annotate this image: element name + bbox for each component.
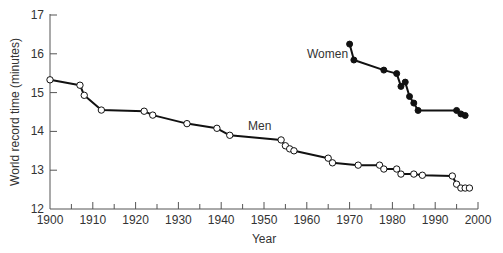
- y-tick-label: 16: [31, 47, 45, 61]
- data-point: [449, 173, 455, 179]
- data-point: [81, 92, 87, 98]
- data-point: [214, 125, 220, 131]
- y-axis-label: World record time (minutes): [8, 38, 22, 186]
- data-point: [141, 108, 147, 114]
- series-women: [347, 41, 469, 118]
- data-point: [355, 162, 361, 168]
- data-point: [411, 100, 417, 106]
- data-point: [381, 166, 387, 172]
- x-tick-label: 1910: [79, 213, 106, 227]
- x-tick-label: 1970: [336, 213, 363, 227]
- data-point: [98, 107, 104, 113]
- y-tick-label: 15: [31, 86, 45, 100]
- x-axis-label: Year: [252, 232, 276, 246]
- women-series-label: Women: [307, 47, 348, 61]
- data-point: [278, 137, 284, 143]
- world-record-chart: 1213141516171900191019201930194019501960…: [0, 0, 503, 253]
- x-tick-label: 1920: [122, 213, 149, 227]
- x-tick-label: 1950: [251, 213, 278, 227]
- data-point: [462, 112, 468, 118]
- data-point: [184, 120, 190, 126]
- data-point: [419, 172, 425, 178]
- data-point: [291, 148, 297, 154]
- data-point: [150, 112, 156, 118]
- data-point: [398, 171, 404, 177]
- x-tick-label: 1980: [379, 213, 406, 227]
- x-tick-label: 1930: [165, 213, 192, 227]
- y-tick-label: 17: [31, 8, 45, 22]
- x-tick-label: 1990: [422, 213, 449, 227]
- axes: [50, 14, 478, 209]
- data-series: [47, 41, 473, 191]
- x-tick-label: 1960: [293, 213, 320, 227]
- data-point: [329, 160, 335, 166]
- data-point: [415, 107, 421, 113]
- y-tick-label: 13: [31, 163, 45, 177]
- data-point: [351, 57, 357, 63]
- data-point: [407, 93, 413, 99]
- data-point: [381, 67, 387, 73]
- x-tick-label: 1940: [208, 213, 235, 227]
- tick-labels: 1213141516171900191019201930194019501960…: [31, 8, 492, 227]
- data-point: [466, 185, 472, 191]
- men-series-label: Men: [248, 119, 271, 133]
- x-tick-label: 2000: [465, 213, 492, 227]
- data-point: [402, 79, 408, 85]
- data-point: [227, 132, 233, 138]
- data-point: [47, 77, 53, 83]
- y-tick-label: 14: [31, 124, 45, 138]
- data-point: [77, 82, 83, 88]
- x-tick-label: 1900: [37, 213, 64, 227]
- data-point: [394, 71, 400, 77]
- data-point: [411, 171, 417, 177]
